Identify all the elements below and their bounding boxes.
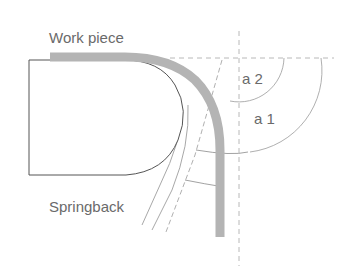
angle-a1-label: a 1 bbox=[254, 110, 275, 127]
springback-diagram: Work piece Springback a 2 a 1 bbox=[0, 0, 349, 274]
angle-a2-label: a 2 bbox=[242, 70, 263, 87]
die-outline bbox=[29, 60, 183, 175]
work-piece-label: Work piece bbox=[49, 29, 124, 46]
springback-label: Springback bbox=[49, 198, 125, 215]
